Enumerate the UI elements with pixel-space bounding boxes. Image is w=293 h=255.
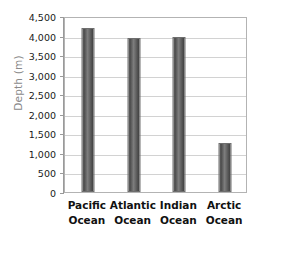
x-axis-category-label: AtlanticOcean [110, 198, 156, 228]
x-axis-category-label: IndianOcean [156, 198, 202, 228]
category-label-line: Ocean [156, 213, 202, 228]
category-label-line: Ocean [201, 213, 247, 228]
y-axis-tick-mark [60, 76, 64, 77]
y-axis-tick-label: 1,000 [29, 148, 56, 159]
category-label-line: Indian [156, 198, 202, 213]
category-label-line: Arctic [201, 198, 247, 213]
bar-slot [157, 18, 203, 192]
y-axis-tick-label: 0 [50, 188, 56, 199]
y-axis-tick-mark [60, 56, 64, 57]
y-axis-tick-mark [60, 95, 64, 96]
x-axis-category-labels: PacificOceanAtlanticOceanIndianOceanArct… [64, 198, 247, 248]
category-label-line: Pacific [64, 198, 110, 213]
y-axis-tick-mark [60, 193, 64, 194]
y-axis-tick-mark [60, 37, 64, 38]
bar[interactable] [81, 28, 94, 192]
bar-slot [65, 18, 111, 192]
y-axis-tick-label: 1,500 [29, 129, 56, 140]
y-axis-tick-label: 3,000 [29, 70, 56, 81]
category-label-line: Ocean [110, 213, 156, 228]
plot-area [64, 17, 247, 193]
x-axis-category-label: PacificOcean [64, 198, 110, 228]
category-label-line: Atlantic [110, 198, 156, 213]
y-axis-tick-mark [60, 173, 64, 174]
y-axis-tick-mark [60, 115, 64, 116]
y-axis-tick-mark [60, 17, 64, 18]
bar-slot [111, 18, 157, 192]
y-axis-tick-label: 2,000 [29, 109, 56, 120]
y-axis-tick-label: 3,500 [29, 51, 56, 62]
y-axis-tick-label: 4,000 [29, 31, 56, 42]
y-axis-tick-label: 4,500 [29, 12, 56, 23]
y-axis-tick-labels: 4,5004,0003,5003,0002,5002,0001,5001,000… [20, 17, 60, 193]
y-axis-tick-label: 2,500 [29, 90, 56, 101]
category-label-line: Ocean [64, 213, 110, 228]
bar-slot [202, 18, 248, 192]
x-axis-category-label: ArcticOcean [201, 198, 247, 228]
bar[interactable] [219, 143, 232, 192]
bar[interactable] [173, 37, 186, 192]
y-axis-tick-label: 500 [38, 168, 56, 179]
y-axis-tick-mark [60, 134, 64, 135]
y-axis-tick-mark [60, 154, 64, 155]
bar[interactable] [127, 38, 140, 192]
bar-series [65, 18, 246, 192]
bar-chart: Depth (m) 4,5004,0003,5003,0002,5002,000… [0, 0, 293, 255]
